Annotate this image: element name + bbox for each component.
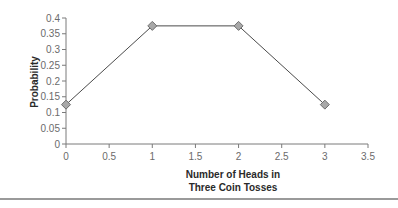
data-markers: [62, 21, 330, 109]
probability-line: [66, 26, 325, 105]
y-axis: 00.050.10.150.20.250.30.350.4: [41, 13, 66, 150]
x-axis-title-line2: Three Coin Tosses: [189, 182, 278, 193]
x-tick-label: 1.5: [188, 151, 202, 162]
y-tick-label: 0.35: [41, 28, 61, 39]
x-tick-label: 3: [322, 151, 328, 162]
line-chart: 00.050.10.150.20.250.30.350.4 00.511.522…: [0, 0, 398, 208]
x-tick-label: 0.5: [102, 151, 116, 162]
y-axis-title: Probability: [29, 56, 40, 108]
y-tick-label: 0.4: [46, 13, 60, 24]
x-tick-label: 0: [63, 151, 69, 162]
y-tick-label: 0.3: [46, 44, 60, 55]
x-tick-label: 2.5: [275, 151, 289, 162]
y-tick-label: 0.2: [46, 76, 60, 87]
x-axis-title-line1: Number of Heads in: [186, 169, 280, 180]
x-tick-label: 3.5: [361, 151, 375, 162]
bottom-divider: [0, 198, 398, 200]
y-tick-label: 0.15: [41, 91, 61, 102]
y-tick-label: 0.1: [46, 107, 60, 118]
x-tick-label: 2: [236, 151, 242, 162]
x-axis: 00.511.522.533.5: [63, 144, 375, 162]
y-tick-label: 0.05: [41, 123, 61, 134]
y-tick-label: 0: [54, 139, 60, 150]
y-tick-label: 0.25: [41, 60, 61, 71]
x-tick-label: 1: [150, 151, 156, 162]
